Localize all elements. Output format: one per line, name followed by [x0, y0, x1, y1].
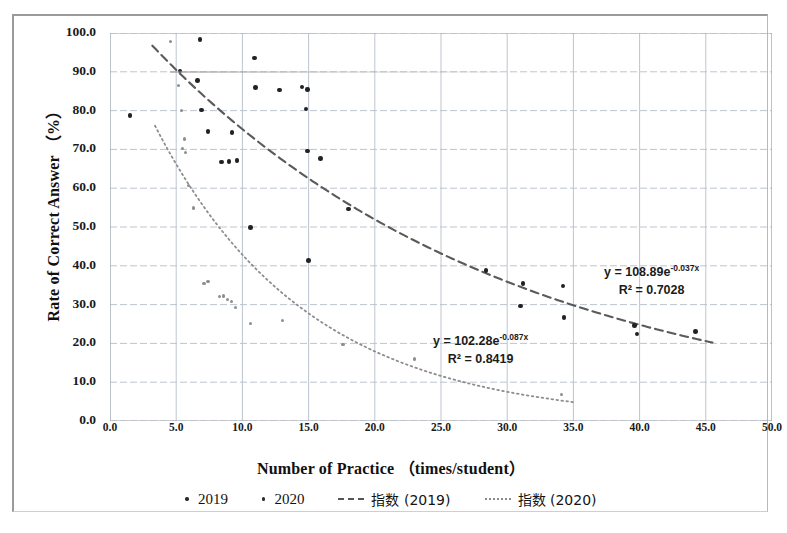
x-axis-title: Number of Practice （times/student）	[0, 455, 782, 479]
y-tick-label: 20.0	[34, 334, 96, 350]
data-point-2019	[252, 56, 257, 61]
legend-item-2[interactable]: 2020	[262, 491, 305, 508]
r2-2019: R² = 0.7028	[604, 281, 699, 299]
data-point-2020	[249, 322, 252, 325]
data-point-2020	[413, 357, 416, 360]
data-point-2020	[180, 109, 183, 112]
legend-item-3[interactable]: 指数 (2019)	[338, 489, 450, 509]
y-tick-label: 50.0	[34, 218, 96, 234]
data-point-2019	[128, 113, 133, 118]
data-point-2020	[202, 282, 205, 285]
y-tick-label: 60.0	[34, 179, 96, 195]
data-point-2020	[183, 137, 186, 140]
legend-dot-icon	[262, 497, 266, 501]
x-tick-label: 50.0	[742, 421, 787, 433]
legend-dot-icon	[185, 497, 189, 501]
chart-legend: 20192020指数 (2019)指数 (2020)	[0, 489, 782, 509]
data-point-2019	[230, 130, 235, 135]
data-point-2020	[187, 184, 190, 187]
x-tick-label: 0.0	[80, 421, 140, 433]
equation-2019-body: y = 108.89e	[604, 265, 670, 279]
legend-label: 指数 (2020)	[518, 489, 597, 509]
data-point-2019	[306, 258, 311, 263]
legend-dotted-line-icon	[485, 498, 511, 500]
equation-2020-body: y = 102.28e	[433, 334, 499, 348]
equation-2020-exponent: -0.087x	[499, 332, 528, 342]
y-tick-label: 90.0	[34, 63, 96, 79]
data-point-2019	[199, 108, 204, 113]
data-point-2019	[484, 268, 489, 273]
data-point-2019	[248, 225, 253, 230]
trendline-equation-2020: y = 102.28e-0.087x R² = 0.8419	[433, 331, 528, 368]
data-point-2020	[192, 206, 195, 209]
trendline-equation-2019: y = 108.89e-0.037x R² = 0.7028	[604, 262, 699, 299]
data-point-2019	[277, 88, 282, 93]
legend-dashed-line-icon	[338, 498, 364, 500]
y-tick-label: 80.0	[34, 102, 96, 118]
y-tick-label: 10.0	[34, 373, 96, 389]
data-point-2019	[219, 160, 224, 165]
y-axis-tick-labels: 0.010.020.030.040.050.060.070.080.090.01…	[34, 0, 96, 533]
scan-artifact	[170, 71, 500, 73]
data-point-2019	[346, 207, 351, 212]
x-tick-label: 40.0	[610, 421, 670, 433]
x-tick-label: 30.0	[477, 421, 537, 433]
data-point-2019	[318, 156, 323, 161]
data-point-2019	[632, 323, 637, 328]
x-tick-label: 15.0	[279, 421, 339, 433]
r2-2020: R² = 0.8419	[433, 350, 528, 368]
data-point-2019	[195, 78, 200, 83]
x-tick-label: 10.0	[212, 421, 272, 433]
legend-item-1[interactable]: 2019	[185, 491, 228, 508]
legend-label: 指数 (2019)	[371, 489, 450, 509]
legend-label: 2020	[274, 491, 304, 508]
data-point-2019	[206, 129, 211, 134]
data-point-2019	[305, 149, 310, 154]
x-tick-label: 35.0	[543, 421, 603, 433]
data-point-2019	[693, 329, 698, 334]
data-point-2019	[253, 85, 258, 90]
x-tick-label: 25.0	[411, 421, 471, 433]
legend-label: 2019	[198, 491, 228, 508]
legend-item-4[interactable]: 指数 (2020)	[485, 489, 597, 509]
y-tick-label: 40.0	[34, 257, 96, 273]
x-tick-label: 5.0	[146, 421, 206, 433]
y-tick-label: 30.0	[34, 296, 96, 312]
equation-2019-exponent: -0.037x	[670, 263, 699, 273]
x-tick-label: 45.0	[676, 421, 736, 433]
data-point-2019	[305, 87, 310, 92]
x-tick-label: 20.0	[345, 421, 405, 433]
data-point-2020	[184, 151, 187, 154]
data-point-2020	[206, 280, 209, 283]
y-tick-label: 100.0	[34, 24, 96, 40]
y-tick-label: 70.0	[34, 140, 96, 156]
data-point-2020	[341, 343, 344, 346]
